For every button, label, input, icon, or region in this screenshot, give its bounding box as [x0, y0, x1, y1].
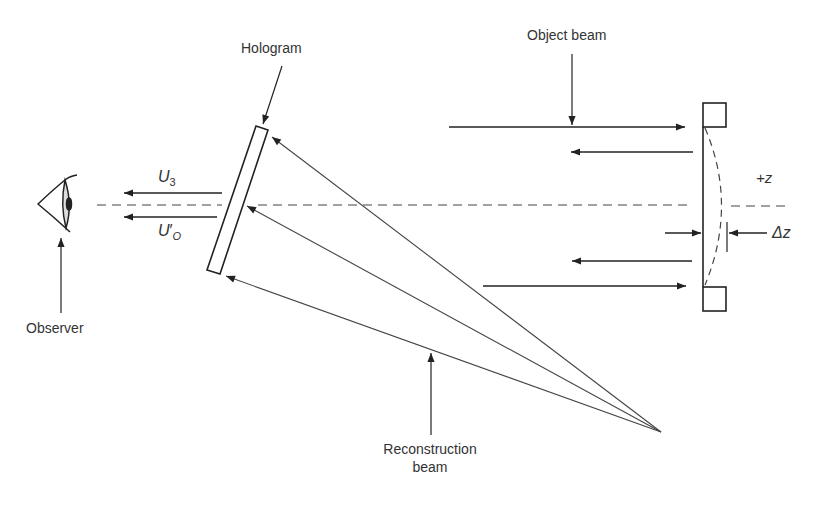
- delta-z-label: Δz: [772, 224, 791, 242]
- reconstruction-label-line2: beam: [370, 458, 490, 476]
- u3-label: U3: [158, 168, 176, 188]
- reconstruction-beam-label: Reconstruction beam: [370, 440, 490, 476]
- u3-main: U: [158, 168, 170, 185]
- hologram-plate: [207, 126, 268, 274]
- hologram-label: Hologram: [241, 40, 302, 56]
- uo-main: U: [158, 222, 170, 239]
- optical-axis: [97, 205, 790, 206]
- eye-icon: [38, 175, 77, 232]
- reconstruction-label-line1: Reconstruction: [370, 440, 490, 458]
- hologram-diagram: [0, 0, 823, 505]
- uo-sub: O: [173, 230, 182, 242]
- object-beam-label: Object beam: [527, 27, 606, 43]
- hologram-pointer-arrow: [263, 66, 282, 124]
- plus-z-label: +z: [756, 169, 772, 186]
- uo-label: U′O: [158, 222, 181, 242]
- u3-sub: 3: [170, 176, 176, 188]
- reconstruction-rays: [226, 137, 661, 432]
- observer-label: Observer: [26, 320, 84, 336]
- deformed-surface-dashed: [705, 128, 722, 285]
